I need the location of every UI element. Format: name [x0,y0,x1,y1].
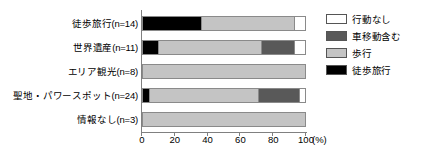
legend-label-0: 行動なし [352,12,391,26]
x-tick-label-1: 20 [160,134,190,145]
bar-segment-1-車移動含む [261,41,293,54]
stacked-bar-0 [142,16,306,31]
bar-segment-4-歩行 [143,113,305,126]
stacked-bar-3 [142,88,306,103]
x-axis-unit-label: (%) [312,134,327,145]
y-axis-label-0: 徒歩旅行(n=14) [72,12,138,36]
x-tick-label-2: 40 [193,134,223,145]
x-tick-label-4: 80 [258,134,288,145]
legend-item-3: 徒歩旅行 [326,61,421,78]
stacked-bar-1 [142,40,306,55]
bar-segment-1-歩行 [158,41,262,54]
bar-row-1 [142,36,306,60]
stacked-bar-2 [142,64,306,79]
legend-label-2: 歩行 [352,46,372,60]
bar-row-2 [142,60,306,84]
bar-row-4 [142,108,306,132]
bar-segment-3-歩行 [149,89,258,102]
legend-swatch-icon-3 [326,65,347,75]
legend-item-1: 車移動含む [326,27,421,44]
bar-segment-0-徒歩旅行 [143,17,201,30]
bar-segment-0-歩行 [201,17,293,30]
bar-segment-3-行動なし [299,89,305,102]
stacked-bar-chart: 徒歩旅行(n=14) 世界遺産(n=11) エリア観光(n=8) 聖地・パワース… [0,0,423,157]
x-tick-label-3: 60 [225,134,255,145]
x-tick-label-0: 0 [127,134,157,145]
bar-segment-2-歩行 [143,65,305,78]
y-axis-labels: 徒歩旅行(n=14) 世界遺産(n=11) エリア観光(n=8) 聖地・パワース… [0,12,140,132]
y-axis-label-1: 世界遺産(n=11) [73,36,138,60]
bar-segment-1-行動なし [294,41,305,54]
y-axis-label-2: エリア観光(n=8) [68,60,138,84]
legend-label-3: 徒歩旅行 [352,63,391,77]
y-axis-label-3: 聖地・パワースポット(n=24) [13,84,138,108]
bar-segment-3-車移動含む [258,89,299,102]
legend-swatch-icon-1 [326,31,347,41]
legend-item-0: 行動なし [326,10,421,27]
bar-segment-0-行動なし [294,17,305,30]
x-axis-line [141,132,307,133]
bar-row-0 [142,12,306,36]
bar-segment-1-徒歩旅行 [143,41,158,54]
plot-area [142,12,306,132]
legend-label-1: 車移動含む [352,29,401,43]
chart-legend: 行動なし 車移動含む 歩行 徒歩旅行 [326,10,421,78]
bar-row-3 [142,84,306,108]
y-axis-label-4: 情報なし(n=3) [77,108,138,132]
legend-swatch-icon-2 [326,48,347,58]
stacked-bar-4 [142,112,306,127]
legend-swatch-icon-0 [326,14,347,24]
legend-item-2: 歩行 [326,44,421,61]
